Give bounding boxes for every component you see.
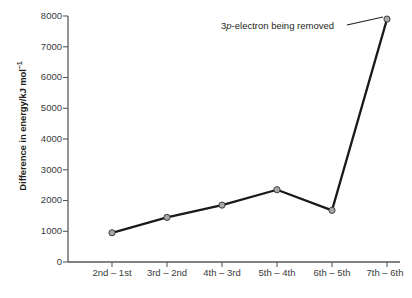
annotation-leader-line (347, 17, 383, 25)
data-line (112, 19, 387, 233)
data-markers (109, 16, 390, 236)
data-point (164, 214, 170, 220)
data-point (274, 187, 280, 193)
data-point (329, 207, 335, 213)
data-point (109, 230, 115, 236)
line-chart: Difference in energy/kJ mol−1 8000 7000 … (0, 0, 412, 298)
plot-area (0, 0, 412, 298)
y-axis-ticks (63, 16, 68, 262)
x-axis-ticks (112, 262, 387, 267)
data-point (219, 202, 225, 208)
data-point (384, 16, 390, 22)
